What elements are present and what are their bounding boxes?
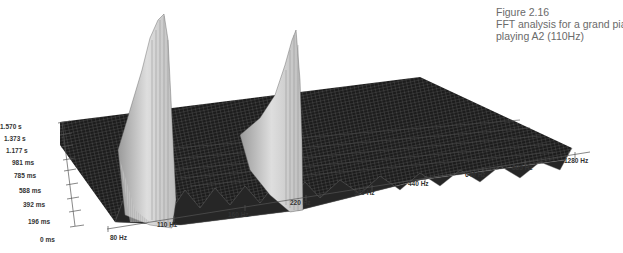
freq-tick-label: 885 Hz <box>512 164 533 171</box>
peak-110hz <box>118 14 176 228</box>
freq-tick-label: 440 Hz <box>408 180 429 187</box>
time-tick-label: 0 ms <box>40 236 55 243</box>
time-tick-label: 1.177 s <box>6 147 28 154</box>
freq-tick-label: 320 Hz <box>354 189 375 196</box>
time-tick-label: 1.570 s <box>0 123 22 130</box>
freq-tick-label: 80 Hz <box>110 234 128 241</box>
time-tick-label: 588 ms <box>19 187 41 194</box>
fft-waterfall-plot: 1.570 s 1.373 s 1.177 s 981 ms 785 ms 58… <box>0 0 623 253</box>
freq-tick-label: 1280 Hz <box>564 157 589 164</box>
freq-tick-label: 160 Hz <box>228 211 249 218</box>
time-tick-label: 392 ms <box>23 201 45 208</box>
freq-tick-label: 110 Hz <box>157 221 178 228</box>
freq-tick-label: 220 Hz <box>290 199 311 206</box>
time-axis-labels: 1.570 s 1.373 s 1.177 s 981 ms 785 ms 58… <box>0 123 55 243</box>
time-tick-label: 785 ms <box>14 172 36 179</box>
time-tick-label: 981 ms <box>12 159 34 166</box>
time-tick-label: 196 ms <box>28 218 50 225</box>
time-tick-label: 1.373 s <box>4 135 26 142</box>
freq-tick-label: 640 Hz <box>465 171 486 178</box>
